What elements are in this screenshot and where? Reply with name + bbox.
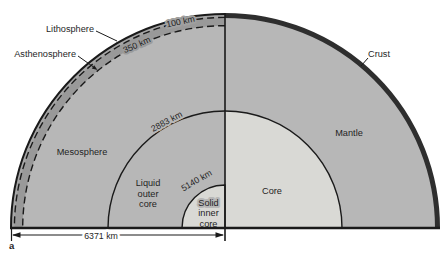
liquid-outer-core-label-line1: Liquid [136,178,161,188]
core-label: Core [262,186,282,196]
mesosphere-label: Mesosphere [57,147,108,157]
earth-cross-section-figure: Lithosphere Asthenosphere Mesosphere Cru… [0,0,444,255]
mantle-label: Mantle [335,128,363,138]
liquid-outer-core-label-line2: outer [138,189,159,199]
earth-cross-section-diagram: Lithosphere Asthenosphere Mesosphere Cru… [0,0,444,255]
lithosphere-pointer-line [96,31,117,41]
arrowhead-right [216,232,225,237]
asthenosphere-label: Asthenosphere [14,49,76,59]
panel-letter: a [9,240,15,251]
radius-6371km-label: 6371 km [84,231,118,241]
solid-inner-core-label-line1: Solid [198,198,218,208]
arrowhead-left [12,232,21,237]
solid-inner-core-label-line2: inner [198,208,218,218]
solid-inner-core-label-line3: core [200,219,218,229]
crust-label: Crust [368,49,390,59]
lithosphere-label: Lithosphere [46,24,94,34]
liquid-outer-core-label-line3: core [139,199,157,209]
